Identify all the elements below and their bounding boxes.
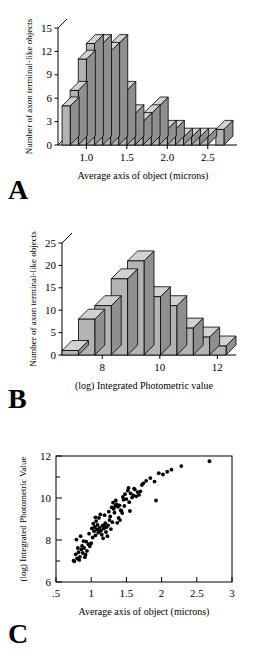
bar-side-face <box>86 50 95 145</box>
panel-a-svg: 036912151.01.52.02.5Average axis of obje… <box>0 0 253 200</box>
bar-front-face <box>62 351 78 355</box>
data-point <box>128 509 132 513</box>
x-tick-label: 2.5 <box>190 587 204 599</box>
y-tick-label: 15 <box>41 22 53 34</box>
data-point <box>113 511 117 515</box>
y-tick-label: 0 <box>51 349 57 361</box>
panel-letter-b: B <box>8 385 27 413</box>
data-point <box>79 534 83 538</box>
data-point <box>108 515 112 519</box>
bars <box>62 251 236 355</box>
y-tick-label: 10 <box>45 304 57 316</box>
data-point <box>137 493 141 497</box>
y-axis-title: Number of axon terminal-like objects <box>24 18 34 154</box>
bar <box>216 120 233 145</box>
scatter-points <box>72 459 212 563</box>
data-point <box>132 487 136 491</box>
data-point <box>165 470 169 474</box>
panel-c: 681012.511.522.53Average axis of object … <box>0 420 253 658</box>
data-point <box>106 523 110 527</box>
y-tick-label: 6 <box>47 92 53 104</box>
x-tick-label: 1.0 <box>79 151 93 163</box>
x-tick-label: 1 <box>88 587 94 599</box>
data-point <box>148 476 152 480</box>
x-axis-title: (log) Integrated Photometric value <box>75 380 214 392</box>
y-tick-label: 25 <box>45 237 57 249</box>
x-tick-label: 12 <box>212 361 223 373</box>
bar-side-face <box>160 287 170 355</box>
x-tick-label: .5 <box>52 587 61 599</box>
panel-b: 051015202581012(log) Integrated Photomet… <box>0 215 253 420</box>
data-point <box>77 550 81 554</box>
data-point <box>107 510 111 514</box>
bar-side-face <box>78 81 87 145</box>
data-point <box>104 530 108 534</box>
panel-c-svg: 681012.511.522.53Average axis of object … <box>0 430 253 630</box>
y-axis-line <box>62 233 72 355</box>
bar-side-face <box>127 81 136 145</box>
data-point <box>82 539 86 543</box>
x-tick-label: 2.0 <box>160 151 174 163</box>
data-point <box>89 541 93 545</box>
y-tick-label: 10 <box>40 492 52 504</box>
data-point <box>83 555 87 559</box>
y-tick-label: 5 <box>51 326 57 338</box>
data-point <box>87 532 91 536</box>
y-tick-label: 3 <box>47 115 53 127</box>
data-point <box>90 527 94 531</box>
data-point <box>100 533 104 537</box>
data-point <box>110 506 114 510</box>
x-tick-label: 1.5 <box>120 151 134 163</box>
plot-frame <box>56 456 232 582</box>
panel-b-svg: 051015202581012(log) Integrated Photomet… <box>0 215 253 405</box>
panel-b-plot: 051015202581012(log) Integrated Photomet… <box>0 215 253 405</box>
data-point <box>110 520 114 524</box>
data-point <box>97 516 101 520</box>
bar-side-face <box>94 35 103 145</box>
panel-a: 036912151.01.52.02.5Average axis of obje… <box>0 0 253 215</box>
data-point <box>78 555 82 559</box>
x-tick-label: 10 <box>154 361 166 373</box>
data-point <box>102 524 106 528</box>
y-tick-label: 12 <box>41 45 52 57</box>
y-tick-label: 0 <box>47 139 53 151</box>
data-point <box>96 523 100 527</box>
panel-a-plot: 036912151.01.52.02.5Average axis of obje… <box>0 0 253 200</box>
data-point <box>94 519 98 523</box>
data-point <box>208 459 212 463</box>
data-point <box>91 522 95 526</box>
panel-letter-a: A <box>8 176 28 204</box>
data-point <box>105 534 109 538</box>
data-point <box>161 473 165 477</box>
y-tick-label: 20 <box>45 259 57 271</box>
bar-side-face <box>144 251 154 355</box>
data-point <box>85 549 89 553</box>
x-tick-label: 1.5 <box>120 587 134 599</box>
x-axis-title: Average axis of object (microns) <box>79 606 210 618</box>
x-axis-title: Average axis of object (microns) <box>78 170 209 182</box>
data-point <box>72 559 76 563</box>
data-point <box>75 538 79 542</box>
bar <box>62 97 79 145</box>
data-point <box>103 513 107 517</box>
data-point <box>157 471 161 475</box>
data-point <box>139 489 143 493</box>
bars <box>62 35 233 145</box>
y-tick-label: 6 <box>46 576 52 588</box>
data-point <box>76 546 80 550</box>
data-point <box>127 500 131 504</box>
data-point <box>153 480 157 484</box>
panel-letter-c: C <box>8 620 28 648</box>
figure-three-panels: 036912151.01.52.02.5Average axis of obje… <box>0 0 253 658</box>
data-point <box>109 527 113 531</box>
y-tick-label: 12 <box>40 450 51 462</box>
data-point <box>98 529 102 533</box>
data-point <box>122 504 126 508</box>
y-tick-label: 15 <box>45 281 57 293</box>
y-tick-label: 9 <box>47 68 53 80</box>
x-tick-label: 8 <box>100 361 106 373</box>
data-point <box>179 464 183 468</box>
data-point <box>127 486 131 490</box>
x-tick-label: 2 <box>159 587 165 599</box>
data-point <box>114 499 118 503</box>
